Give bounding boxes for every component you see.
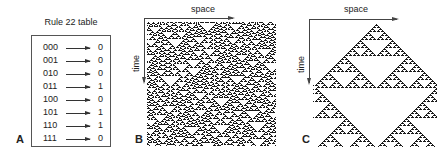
rule-input: 110 [43,120,57,130]
space-axis-label: space [191,4,215,14]
panel-label-c: C [302,133,310,145]
arrow-icon [66,100,90,101]
arrow-icon [66,87,90,88]
rule-table-title: Rule 22 table [44,17,97,27]
time-axis-arrow [309,19,310,83]
rule-row: 001 0 [32,55,110,68]
rule-input: 011 [43,81,57,91]
rule-output: 0 [98,42,103,52]
rule-table: 000 0 001 0 010 0 011 1 100 0 101 1 110 … [31,35,111,147]
space-axis-arrow [144,18,233,19]
rule-output: 0 [98,133,103,143]
arrow-icon [66,126,90,127]
arrow-icon [66,139,90,140]
rule-output: 1 [98,107,103,117]
rule-input: 000 [43,42,58,52]
ca-random-pattern [147,22,276,146]
rule-output: 1 [98,120,103,130]
space-axis-label: space [344,4,368,14]
rule-output: 0 [98,55,103,65]
time-axis-label: time [131,55,141,72]
space-axis-arrow [309,19,397,20]
rule-output: 1 [98,81,103,91]
time-axis-arrow [144,18,145,82]
rule-row: 011 1 [32,81,110,94]
panel-label-a: A [16,133,24,145]
rule-row: 111 0 [32,133,110,146]
rule-input: 100 [43,94,58,104]
rule-row: 010 0 [32,68,110,81]
rule-row: 110 1 [32,120,110,133]
panel-label-b: B [135,133,143,145]
rule-input: 010 [43,68,58,78]
rule-row: 100 0 [32,94,110,107]
arrow-icon [66,113,90,114]
arrow-icon [66,48,90,49]
rule-output: 0 [98,94,103,104]
time-axis-label: time [296,56,306,73]
rule-output: 0 [98,68,103,78]
rule-row: 101 1 [32,107,110,120]
rule-input: 111 [43,133,57,143]
ca-sierpinski-pattern [313,24,437,147]
arrow-icon [66,61,90,62]
rule-input: 001 [43,55,58,65]
rule-row: 000 0 [32,42,110,55]
arrow-icon [66,74,90,75]
rule-input: 101 [43,107,58,117]
